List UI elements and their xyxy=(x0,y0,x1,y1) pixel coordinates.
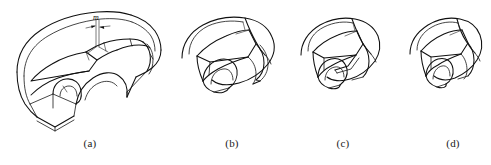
caption-a: (a) xyxy=(84,138,97,149)
dimension-label-m: m xyxy=(93,14,99,22)
panel-c-drawing xyxy=(301,18,380,89)
caption-b: (b) xyxy=(225,138,238,149)
figure-line-art xyxy=(0,0,491,165)
panel-a-drawing xyxy=(17,12,161,131)
caption-d: (d) xyxy=(446,138,459,149)
figure-container: m (a) (b) (c) (d) xyxy=(0,0,491,165)
panel-d-drawing xyxy=(410,18,482,88)
panel-b-drawing xyxy=(182,17,274,93)
dimension-marker-m xyxy=(86,20,110,53)
caption-c: (c) xyxy=(337,138,350,149)
